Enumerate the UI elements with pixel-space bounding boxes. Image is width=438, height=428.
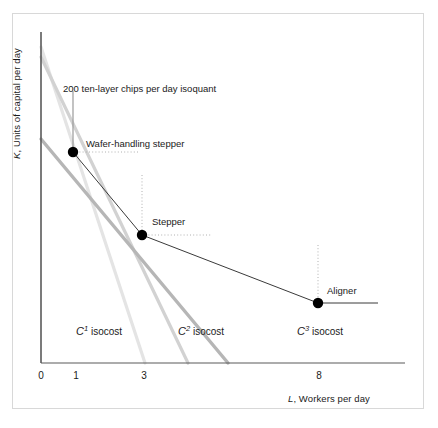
- x-tick-0: 0: [31, 370, 51, 381]
- isocost-c3-symbol: C: [297, 325, 305, 337]
- isoquant-segment-1: [73, 152, 142, 235]
- point-label-stepper: Stepper: [152, 216, 185, 227]
- isocost-line-c1: [41, 47, 145, 363]
- isocost-label-c2: C2 isocost: [178, 325, 224, 337]
- isocost-c2-symbol: C: [178, 325, 186, 337]
- point-label-wafer-handling-stepper: Wafer-handling stepper: [86, 138, 184, 149]
- x-tick-1: 1: [66, 370, 86, 381]
- data-point-wafer-handling-stepper[interactable]: [68, 147, 78, 157]
- point-label-aligner: Aligner: [327, 285, 357, 296]
- y-axis-label: K, Units of capital per day: [11, 24, 22, 184]
- x-tick-8: 8: [309, 370, 329, 381]
- isocost-c1-symbol: C: [76, 325, 84, 337]
- x-axis-label-text: , Workers per day: [293, 393, 370, 404]
- isoquant-isocost-chart: [0, 0, 438, 428]
- y-axis-label-text: , Units of capital per day: [11, 48, 22, 153]
- isocost-label-c3: C3 isocost: [297, 325, 343, 337]
- isocost-c2-superscript: 2: [186, 324, 190, 333]
- isocost-c1-superscript: 1: [84, 324, 88, 333]
- isoquant-annotation: 200 ten-layer chips per day isoquant: [63, 83, 216, 94]
- isocost-c3-word: isocost: [312, 326, 343, 337]
- y-axis-variable: K: [11, 153, 22, 159]
- data-point-stepper[interactable]: [137, 230, 147, 240]
- isocost-c3-superscript: 3: [305, 324, 309, 333]
- x-axis-label: L, Workers per day: [288, 393, 370, 404]
- isocost-c2-word: isocost: [193, 326, 224, 337]
- screenshot-page: K, Units of capital per day L, Workers p…: [0, 0, 438, 428]
- isocost-line-c2: [41, 57, 188, 363]
- data-point-aligner[interactable]: [313, 298, 323, 308]
- isocost-label-c1: C1 isocost: [76, 325, 122, 337]
- isocost-c1-word: isocost: [91, 326, 122, 337]
- x-tick-3: 3: [134, 370, 154, 381]
